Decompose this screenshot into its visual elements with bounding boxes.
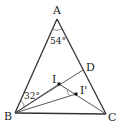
side-bc	[15, 113, 106, 114]
side-ac	[57, 19, 106, 114]
label-i-prime: I'	[80, 84, 87, 97]
label-d: D	[86, 61, 95, 74]
angle-label-a: 54°	[50, 36, 66, 46]
label-a: A	[52, 4, 62, 17]
point-i	[58, 83, 61, 86]
triangle-diagram: A B C D I I' 54° 32°	[0, 0, 129, 135]
label-b: B	[4, 110, 12, 123]
angle-label-b: 32°	[24, 91, 40, 101]
point-i-prime	[75, 93, 78, 96]
label-i: I	[52, 73, 56, 86]
angle-arc-a	[52, 29, 62, 31]
label-c: C	[108, 111, 116, 124]
